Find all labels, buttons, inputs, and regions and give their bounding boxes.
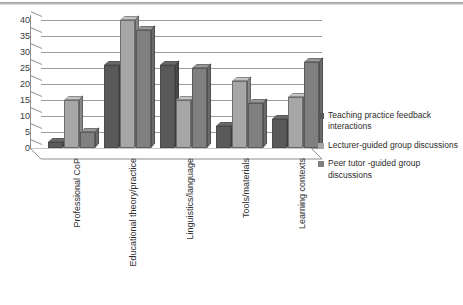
legend-item-label: Peer tutor -guided group discussions <box>328 158 460 181</box>
legend-swatch-icon <box>318 161 324 167</box>
bar-face <box>48 142 63 148</box>
plot-area <box>41 20 322 148</box>
y-axis-tick-label: 0 <box>6 144 30 153</box>
bar-face <box>160 65 175 148</box>
y-axis-tick-labels: 0510152025303540 <box>0 20 30 148</box>
bar <box>248 103 263 148</box>
legend-item[interactable]: Peer tutor -guided group discussions <box>318 158 460 181</box>
bar <box>176 100 191 148</box>
bar-face <box>80 132 95 148</box>
bar <box>160 65 175 148</box>
chart-legend: Teaching practice feedback interactionsL… <box>318 110 460 188</box>
legend-item[interactable]: Teaching practice feedback interactions <box>318 110 460 133</box>
scan-artifact-band <box>0 2 463 5</box>
bar-face <box>176 100 191 148</box>
legend-item[interactable]: Lecturer-guided group discussions <box>318 140 460 151</box>
bar-face <box>136 30 151 148</box>
bar <box>136 30 151 148</box>
bar-side <box>207 63 211 148</box>
y-axis-tick-label: 30 <box>6 48 30 57</box>
bar-face <box>192 68 207 148</box>
x-axis-tick-label: Linguistics/language <box>186 158 195 240</box>
x-axis-tick-labels: Professional CoPEducational theory/pract… <box>41 158 331 298</box>
bar-side <box>95 127 99 148</box>
y-axis-tick-label: 15 <box>6 96 30 105</box>
y-axis-tick-label: 25 <box>6 64 30 73</box>
legend-swatch-icon <box>318 143 324 149</box>
bar-chart-figure: 0510152025303540 Professional CoPEducati… <box>0 0 463 305</box>
x-axis-tick-label: Educational theory/practice <box>129 158 138 267</box>
bar-face <box>248 103 263 148</box>
bar-face <box>104 65 119 148</box>
legend-item-label: Lecturer-guided group discussions <box>328 140 458 151</box>
bar <box>48 142 63 148</box>
bar-face <box>288 97 303 148</box>
bars-container <box>41 20 322 148</box>
bar <box>216 126 231 148</box>
bar <box>104 65 119 148</box>
x-axis-tick-label: Professional CoP <box>73 158 82 228</box>
bar <box>80 132 95 148</box>
gridline-depth-edge <box>31 11 42 17</box>
bar <box>288 97 303 148</box>
chart-floor <box>30 148 322 158</box>
y-axis-tick-label: 5 <box>6 128 30 137</box>
x-axis-tick-label: Learning contexts <box>298 158 307 229</box>
bar-face <box>120 20 135 148</box>
bar <box>232 81 247 148</box>
bar <box>192 68 207 148</box>
legend-item-label: Teaching practice feedback interactions <box>328 110 460 133</box>
x-axis-tick-label: Tools/materials <box>242 158 251 218</box>
y-axis-line <box>30 15 31 148</box>
bar-face <box>216 126 231 148</box>
bar-face <box>232 81 247 148</box>
y-axis-tick-label: 35 <box>6 32 30 41</box>
y-axis-tick-label: 20 <box>6 80 30 89</box>
bar-face <box>64 100 79 148</box>
y-axis-tick-label: 10 <box>6 112 30 121</box>
bar <box>272 119 287 148</box>
bar <box>64 100 79 148</box>
bar-face <box>272 119 287 148</box>
bar-side <box>151 25 155 148</box>
legend-swatch-icon <box>318 113 324 119</box>
y-axis-tick-label: 40 <box>6 16 30 25</box>
bar <box>120 20 135 148</box>
bar-side <box>263 98 267 148</box>
